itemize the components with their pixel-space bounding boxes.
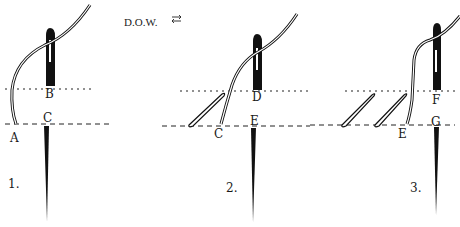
needle-point-icon: [44, 126, 49, 222]
diagram-title: D.O.W.: [124, 16, 158, 28]
point-label-f: F: [432, 93, 440, 107]
completed-stitch: [342, 94, 375, 127]
step-number-2: 2.: [226, 181, 237, 195]
point-label-c: C: [43, 111, 52, 125]
step-1: A B C 1.: [8, 5, 90, 222]
diagram-canvas: A B C 1. D.O.W. C D E 2.: [0, 0, 460, 227]
step-2: C D E 2.: [189, 14, 297, 222]
step-number-1: 1.: [8, 177, 19, 191]
title-group: D.O.W.: [124, 15, 181, 28]
stitch-diagram: A B C 1. D.O.W. C D E 2.: [0, 0, 460, 227]
left-right-arrows-icon: [172, 15, 181, 23]
step-number-3: 3.: [410, 181, 421, 195]
point-label-d: D: [252, 90, 262, 104]
point-label-a: A: [9, 131, 19, 145]
needle-point-icon: [251, 128, 256, 222]
point-label-g: G: [431, 115, 441, 129]
point-label-e: E: [250, 114, 259, 128]
needle-point-icon: [434, 127, 439, 215]
step-3: E F G 3.: [342, 16, 460, 215]
completed-stitch: [189, 93, 225, 126]
completed-stitch: [375, 94, 407, 127]
point-label-c: C: [214, 127, 223, 141]
point-label-b: B: [45, 87, 54, 101]
point-label-e: E: [398, 127, 407, 141]
